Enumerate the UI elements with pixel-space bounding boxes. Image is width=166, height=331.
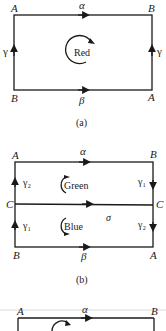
- edge-label: γ₂: [22, 177, 31, 188]
- panel-c: A B α: [0, 303, 166, 331]
- corner-label: B: [11, 92, 18, 104]
- corner-label: B: [151, 305, 158, 317]
- corner-label: B: [150, 148, 157, 160]
- corner-label: B: [148, 2, 155, 14]
- edge-label: σ: [106, 212, 112, 223]
- arrowhead-icon: [64, 232, 70, 236]
- corner-label: A: [16, 305, 24, 317]
- diagram-canvas: A B B A α β γ γ Red (a) A B C C B A α β: [0, 0, 166, 331]
- arrowhead-icon: [65, 320, 71, 326]
- panel-a: A B B A α β γ γ Red (a): [2, 0, 162, 129]
- edge-label: γ₁: [22, 220, 31, 231]
- corner-label: A: [149, 249, 157, 261]
- edge-label: β: [80, 250, 87, 262]
- panel-b: A B C C B A α β σ γ₂ γ₁ γ₁ γ₂ Green Blue…: [6, 145, 164, 286]
- edge-label: β: [78, 94, 85, 106]
- edge-label: γ: [156, 45, 162, 57]
- panel-caption: (b): [76, 274, 88, 286]
- edge-label: γ₁: [137, 176, 146, 187]
- edge-label: α: [82, 303, 88, 315]
- corner-label: A: [11, 149, 19, 161]
- edge-label: α: [79, 0, 85, 11]
- edge-label: γ₂: [137, 219, 146, 230]
- edge-label: α: [80, 145, 86, 157]
- corner-label: C: [156, 198, 164, 210]
- corner-label: A: [147, 91, 155, 103]
- corner-label: A: [10, 2, 18, 14]
- arrowhead-icon: [64, 175, 70, 179]
- corner-label: C: [6, 198, 14, 210]
- edge-label: γ: [2, 45, 8, 57]
- region-label: Red: [74, 47, 90, 58]
- region-label: Green: [64, 180, 88, 191]
- corner-label: B: [13, 249, 20, 261]
- panel-caption: (a): [76, 117, 87, 129]
- region-label: Blue: [64, 221, 83, 232]
